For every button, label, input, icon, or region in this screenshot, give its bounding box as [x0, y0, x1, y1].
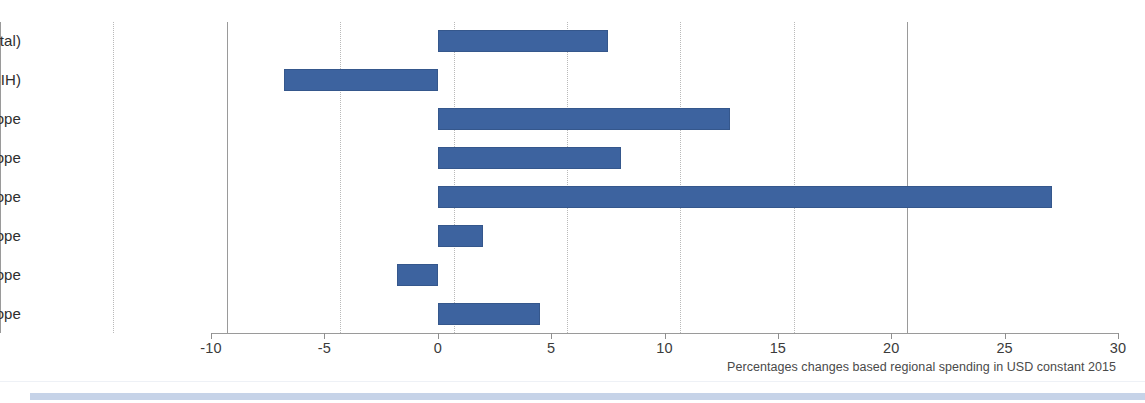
- bar-row: [211, 216, 1118, 255]
- bar-row: [211, 139, 1118, 178]
- chart-figure: -10-5051015202530 Balkans (total)Balkans…: [0, 0, 1145, 403]
- x-tick-label: 10: [656, 340, 672, 356]
- x-tick-mark: [211, 333, 212, 339]
- category-label: Southern Europe: [0, 227, 21, 244]
- x-tick-mark: [551, 333, 552, 339]
- x-tick-label: 15: [770, 340, 786, 356]
- bar-row: [211, 100, 1118, 139]
- bar-row: [211, 294, 1118, 333]
- gridline: [0, 22, 2, 333]
- gridline: [113, 22, 115, 333]
- bar: [438, 186, 1052, 208]
- category-label: Southeastern Europe: [0, 188, 21, 205]
- x-tick-mark: [1118, 333, 1119, 339]
- category-label: Total Europe: [0, 305, 21, 322]
- x-tick-label: -5: [318, 340, 331, 356]
- bar-row: [211, 61, 1118, 100]
- x-tick-label: -10: [200, 340, 221, 356]
- footer-divider: [0, 381, 1145, 382]
- x-tick-mark: [891, 333, 892, 339]
- plot-area: [211, 22, 1118, 333]
- bar: [438, 225, 483, 247]
- category-label: Balkans (excluding BIH): [0, 71, 21, 88]
- bar: [438, 108, 731, 130]
- bar: [438, 30, 608, 52]
- category-label: Western Europe: [0, 266, 21, 283]
- footer-accent-bar: [30, 393, 1145, 400]
- x-tick-mark: [438, 333, 439, 339]
- category-label: Central Europe: [0, 110, 21, 127]
- x-tick-label: 30: [1110, 340, 1126, 356]
- x-tick-label: 20: [883, 340, 899, 356]
- category-label: Balkans (total): [0, 32, 21, 49]
- x-tick-label: 0: [434, 340, 442, 356]
- bar: [438, 303, 540, 325]
- bar: [284, 69, 438, 91]
- x-tick-mark: [778, 333, 779, 339]
- bar: [438, 147, 622, 169]
- x-tick-label: 25: [996, 340, 1012, 356]
- category-label: Northern Europe: [0, 149, 21, 166]
- x-tick-mark: [1005, 333, 1006, 339]
- x-axis-caption: Percentages changes based regional spend…: [727, 360, 1116, 374]
- x-tick-label: 5: [547, 340, 555, 356]
- x-tick-mark: [324, 333, 325, 339]
- bar-row: [211, 22, 1118, 61]
- bar-row: [211, 178, 1118, 217]
- x-tick-mark: [665, 333, 666, 339]
- bar: [397, 264, 438, 286]
- bar-row: [211, 255, 1118, 294]
